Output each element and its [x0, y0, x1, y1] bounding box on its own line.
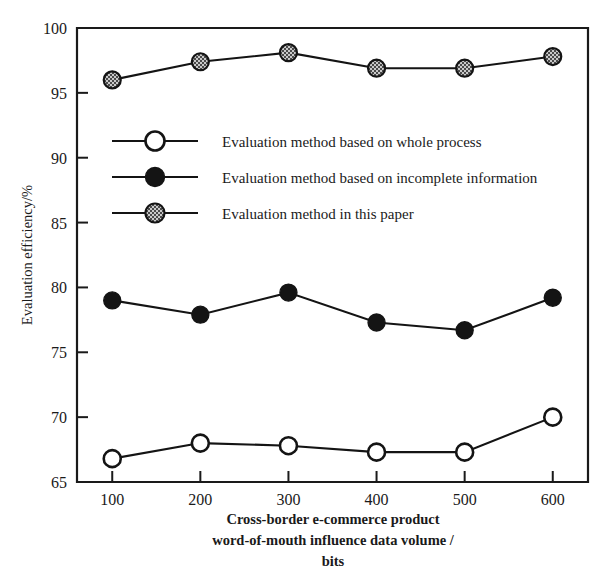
x-tick-label: 400 — [365, 491, 389, 508]
x-tick-label: 100 — [100, 491, 124, 508]
data-point — [456, 322, 473, 339]
data-point — [544, 409, 561, 426]
data-point — [544, 48, 561, 65]
x-axis-title-line-2: word-of-mouth influence data volume / — [212, 532, 455, 548]
y-tick-label: 100 — [43, 20, 67, 37]
data-point — [280, 44, 297, 61]
data-point — [280, 437, 297, 454]
data-point — [280, 284, 297, 301]
data-point — [104, 71, 121, 88]
data-point — [192, 53, 209, 70]
y-tick-label: 80 — [51, 279, 67, 296]
data-point — [192, 435, 209, 452]
legend-marker-filled-circle-icon — [146, 168, 165, 187]
data-point — [192, 306, 209, 323]
legend-marker-hatched-circle-icon — [146, 204, 165, 223]
x-tick-label: 500 — [453, 491, 477, 508]
x-tick-label: 300 — [276, 491, 300, 508]
data-point — [368, 444, 385, 461]
data-point — [368, 314, 385, 331]
y-axis-title: Evaluation efficiency/% — [19, 185, 35, 325]
data-point — [456, 444, 473, 461]
y-tick-label: 70 — [51, 409, 67, 426]
y-tick-label: 95 — [51, 85, 67, 102]
legend-label: Evaluation method in this paper — [222, 206, 414, 222]
x-tick-label: 600 — [541, 491, 565, 508]
x-tick-label: 200 — [188, 491, 212, 508]
chart-background — [0, 0, 608, 586]
y-tick-label: 75 — [51, 344, 67, 361]
x-axis-title-line-1: Cross-border e-commerce product — [226, 511, 439, 527]
chart-container: 65707580859095100 100200300400500600 Eva… — [0, 0, 608, 586]
y-tick-label: 85 — [51, 215, 67, 232]
data-point — [456, 60, 473, 77]
legend-marker-open-circle-icon — [146, 132, 165, 151]
y-tick-label: 65 — [51, 474, 67, 491]
legend-item-3: Evaluation method in this paper — [112, 204, 414, 223]
data-point — [104, 450, 121, 467]
y-tick-label: 90 — [51, 150, 67, 167]
legend-label: Evaluation method based on incomplete in… — [222, 170, 538, 186]
line-chart: 65707580859095100 100200300400500600 Eva… — [0, 0, 608, 586]
data-point — [368, 60, 385, 77]
data-point — [104, 292, 121, 309]
x-axis-title-line-3: bits — [322, 553, 345, 569]
data-point — [544, 289, 561, 306]
legend-label: Evaluation method based on whole process — [222, 134, 482, 150]
